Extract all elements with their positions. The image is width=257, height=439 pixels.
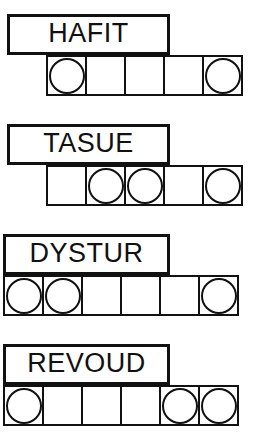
circle-icon: [6, 388, 42, 424]
word-block: REVOUD: [0, 330, 257, 439]
answer-cell[interactable]: [81, 275, 122, 316]
answer-cell-row: [3, 275, 239, 316]
scrambled-word-box: TASUE: [7, 124, 170, 165]
answer-cell-row: [3, 385, 239, 426]
answer-cell[interactable]: [3, 385, 44, 426]
answer-cell[interactable]: [198, 385, 239, 426]
answer-cell[interactable]: [163, 55, 204, 96]
circle-icon: [162, 388, 198, 424]
puzzle-sheet: HAFIT TASUE DYSTUR: [0, 0, 257, 439]
circle-icon: [201, 388, 237, 424]
scrambled-word-box: REVOUD: [3, 344, 170, 385]
answer-cell[interactable]: [46, 55, 87, 96]
answer-cell[interactable]: [81, 385, 122, 426]
answer-cell[interactable]: [120, 275, 161, 316]
answer-cell[interactable]: [85, 165, 126, 206]
answer-cell[interactable]: [202, 55, 243, 96]
scrambled-word-text: REVOUD: [27, 350, 146, 377]
answer-cell[interactable]: [3, 275, 44, 316]
circle-icon: [6, 278, 42, 314]
answer-cell[interactable]: [85, 55, 126, 96]
answer-cell[interactable]: [198, 275, 239, 316]
word-block: HAFIT: [0, 0, 257, 110]
circle-icon: [49, 58, 85, 94]
answer-cell[interactable]: [202, 165, 243, 206]
circle-icon: [201, 278, 237, 314]
scrambled-word-box: HAFIT: [7, 14, 170, 55]
answer-cell[interactable]: [46, 165, 87, 206]
scrambled-word-box: DYSTUR: [3, 234, 170, 275]
answer-cell[interactable]: [159, 275, 200, 316]
circle-icon: [45, 278, 81, 314]
circle-icon: [88, 168, 124, 204]
scrambled-word-text: DYSTUR: [29, 240, 143, 267]
circle-icon: [205, 58, 241, 94]
answer-cell[interactable]: [124, 55, 165, 96]
circle-icon: [127, 168, 163, 204]
word-block: TASUE: [0, 110, 257, 220]
scrambled-word-text: HAFIT: [48, 20, 129, 47]
answer-cell[interactable]: [42, 385, 83, 426]
answer-cell[interactable]: [42, 275, 83, 316]
word-block: DYSTUR: [0, 220, 257, 330]
answer-cell-row: [46, 165, 243, 206]
circle-icon: [205, 168, 241, 204]
answer-cell[interactable]: [120, 385, 161, 426]
answer-cell[interactable]: [159, 385, 200, 426]
answer-cell-row: [46, 55, 243, 96]
answer-cell[interactable]: [124, 165, 165, 206]
answer-cell[interactable]: [163, 165, 204, 206]
scrambled-word-text: TASUE: [43, 130, 134, 157]
